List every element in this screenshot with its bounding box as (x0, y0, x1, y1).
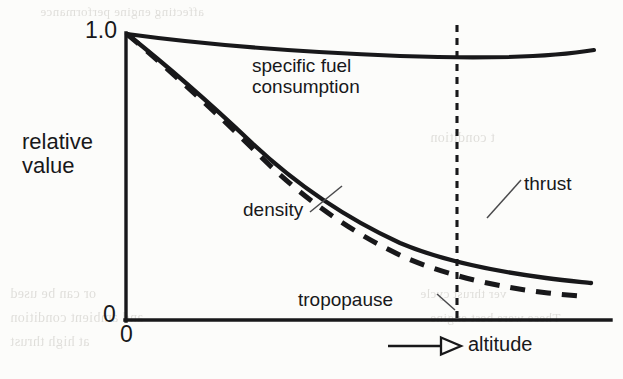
tropopause-leader-line (437, 294, 455, 310)
y-axis-title-line2: value (22, 154, 93, 178)
annotation-label-tropopause: tropopause (298, 290, 393, 311)
y-axis-title: relative value (22, 130, 93, 178)
series-label-specific-fuel-consumption: specific fuel consumption (252, 56, 360, 97)
series-label-thrust: thrust (524, 174, 572, 195)
sfc-label-line2: consumption (252, 77, 360, 98)
altitude-arrow-icon (388, 338, 461, 355)
x-axis-tick-origin: 0 (120, 322, 133, 347)
y-axis-title-line1: relative (22, 130, 93, 154)
thrust-leader-line (487, 180, 521, 218)
x-axis-title: altitude (468, 334, 533, 356)
chart-figure: affecting engine performance t condition… (0, 0, 623, 379)
curve-specific-fuel-consumption (127, 34, 594, 58)
y-axis-tick-bottom: 0 (103, 302, 116, 327)
y-axis-tick-top: 1.0 (85, 18, 117, 43)
sfc-label-line1: specific fuel (252, 56, 360, 77)
series-label-density: density (243, 200, 303, 221)
